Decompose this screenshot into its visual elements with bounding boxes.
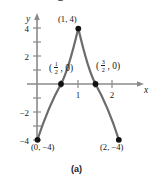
- annotation-right-endpoint: (2, −4): [100, 142, 123, 152]
- annotation-root-left-close: , 0): [61, 63, 74, 73]
- figure-panel: y x 4 2 −2 −4 1 2 (1, 4) ( 1 2 , 0) ( 3 …: [0, 0, 153, 184]
- annotation-root-right-fraction: 3 2: [101, 59, 105, 73]
- annotation-root-left: ( 1 2 , 0): [49, 61, 73, 75]
- y-axis: [34, 13, 40, 142]
- y-axis-label: y: [25, 14, 31, 24]
- y-ticklabel-neg4: −4: [19, 136, 29, 146]
- data-point-root-right: [93, 81, 99, 87]
- figure-caption: (a): [0, 164, 153, 174]
- fraction-denominator: 2: [54, 69, 58, 75]
- annotation-root-left-open: (: [49, 63, 52, 73]
- annotation-root-left-fraction: 1 2: [54, 61, 58, 75]
- annotation-root-right-close: , 0): [108, 61, 121, 71]
- y-ticklabel-neg2: −2: [19, 108, 29, 118]
- x-axis-label: x: [143, 85, 149, 95]
- annotation-left-endpoint: (0, −4): [31, 142, 54, 152]
- data-point-root-left: [58, 81, 64, 87]
- fraction-numerator: 3: [101, 59, 105, 65]
- fraction-numerator: 1: [54, 61, 58, 67]
- x-ticklabel-2: 2: [110, 90, 115, 100]
- annotation-vertex: (1, 4): [58, 14, 77, 24]
- y-ticklabel-4: 4: [25, 24, 30, 34]
- annotation-root-right: ( 3 2 , 0): [96, 59, 120, 73]
- parabola-plot: y x 4 2 −2 −4 1 2: [0, 0, 153, 168]
- data-point-vertex: [75, 26, 81, 32]
- y-ticklabel-2: 2: [25, 52, 30, 62]
- x-ticklabel-1: 1: [76, 90, 81, 100]
- fraction-denominator: 2: [101, 67, 105, 73]
- annotation-root-right-open: (: [96, 61, 99, 71]
- x-axis: [27, 81, 144, 87]
